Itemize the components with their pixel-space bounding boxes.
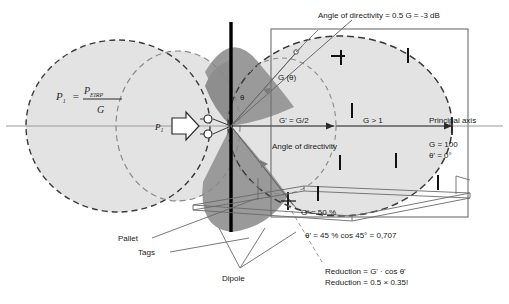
label-angle-of-directivity-inner: Angle of directivity [272, 142, 337, 151]
label-g-theta: G (θ) [278, 73, 297, 82]
tags-leader [170, 238, 249, 252]
label-principal-axis: Principal axis [429, 116, 476, 125]
feed-terminal-upper [204, 115, 212, 123]
label-theta-prime-0: θ' = 0° [429, 151, 452, 160]
label-pallet: Pallet [118, 234, 139, 243]
formula-equals: = [72, 90, 79, 102]
label-g-100: G = 100 [429, 140, 458, 149]
label-angle-of-directivity-top: Angle of directivity = 0.5 G = -3 dB [318, 11, 440, 20]
label-reduction-2: Reduction = 0.5 × 0.35! [325, 278, 408, 287]
label-g-half: G' = G/2 [279, 116, 309, 125]
dipole-leader-left [219, 228, 240, 268]
formula-numerator-symbol: P [83, 85, 90, 96]
dipole-leader-right [240, 228, 265, 268]
formula-numerator-sub: EIRP [89, 92, 103, 98]
feed-terminal-lower [204, 130, 212, 138]
label-reduction-1: Reduction = G' · cos θ' [325, 267, 406, 276]
dipole-leader-far [240, 232, 296, 268]
label-tags: Tags [138, 248, 155, 257]
diagram-canvas: Angle of directivity = 0.5 G = -3 dB G (… [0, 0, 509, 304]
label-theta-prime-45: θ' = 45 % cos 45° = 0,707 [305, 231, 397, 240]
label-dipole: Dipole [222, 274, 245, 283]
label-g-greater-1: G > 1 [363, 116, 383, 125]
label-theta: θ [240, 93, 245, 102]
formula-denominator: G [97, 104, 104, 115]
antenna-pattern-diagram: Angle of directivity = 0.5 G = -3 dB G (… [0, 0, 509, 304]
label-p1-axis-sub: 1 [161, 127, 164, 133]
formula-lhs-sub: 1 [63, 98, 66, 104]
label-g-prime-50: G' = 50 % [301, 208, 336, 217]
